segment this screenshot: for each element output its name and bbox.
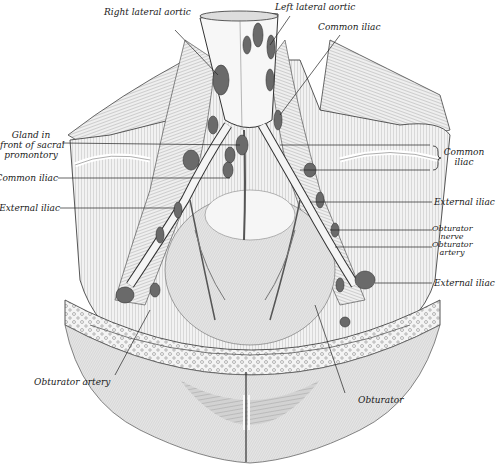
label-external-iliac-lower: External iliac xyxy=(434,278,495,288)
anatomical-figure: Right lateral aortic Left lateral aortic… xyxy=(0,0,499,466)
common-iliac-right-line-2: iliac xyxy=(440,157,488,167)
label-common-iliac-left: Common iliac xyxy=(0,173,58,183)
common-iliac-right-line-1: Common xyxy=(440,147,488,157)
label-common-iliac-top: Common iliac xyxy=(318,22,381,32)
illustration-svg xyxy=(0,0,499,466)
gland-line-2: front of sacral xyxy=(0,140,62,150)
label-external-iliac-left: External iliac xyxy=(0,203,60,213)
label-obturator-bottom: Obturator xyxy=(358,395,404,405)
gland-line-3: promontory xyxy=(0,150,62,160)
label-obturator-nerve-artery: Obturator nerve Obturator artery xyxy=(432,225,472,257)
obturator-artery-line-2: artery xyxy=(432,249,472,257)
label-left-lateral-aortic: Left lateral aortic xyxy=(275,2,355,12)
gland-line-1: Gland in xyxy=(0,130,62,140)
label-obturator-artery-bottom: Obturator artery xyxy=(34,377,110,387)
label-gland-sacral-promontory: Gland in front of sacral promontory xyxy=(0,130,62,160)
label-external-iliac-right: External iliac xyxy=(434,197,495,207)
label-common-iliac-right: Common iliac xyxy=(440,147,488,167)
label-right-lateral-aortic: Right lateral aortic xyxy=(104,7,191,17)
